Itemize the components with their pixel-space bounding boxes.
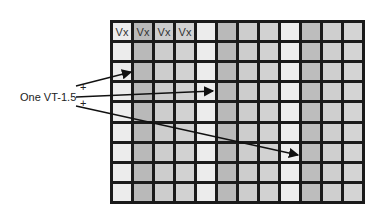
arrows-overlay — [0, 0, 382, 219]
arrow — [76, 72, 131, 86]
arrow — [76, 91, 213, 97]
arrow — [76, 106, 298, 155]
